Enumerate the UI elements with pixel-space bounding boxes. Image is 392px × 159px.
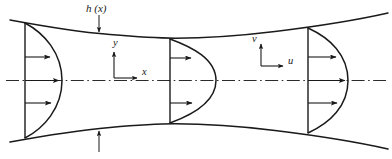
x-axis-label: x [141, 66, 147, 77]
channel-height-label: h (x) [86, 2, 107, 15]
inlet-velocity-profile [25, 23, 62, 138]
outlet-velocity-profile [308, 28, 348, 133]
u-velocity-label: u [288, 55, 293, 66]
upper-wall-curve [10, 13, 388, 38]
y-axis-label: y [112, 37, 118, 48]
channel-flow-diagram: h (x) y x v u [0, 0, 392, 159]
figure-container: h (x) y x v u [0, 0, 392, 159]
v-velocity-label: v [252, 33, 257, 44]
position-axes-triad: y x [112, 37, 147, 78]
velocity-axes-triad: v u [252, 33, 293, 66]
lower-wall-curve [10, 124, 388, 149]
